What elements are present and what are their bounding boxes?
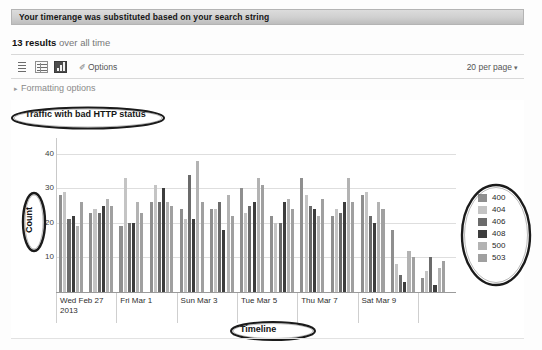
chart-bar[interactable] bbox=[248, 206, 251, 292]
chart-bar[interactable] bbox=[210, 209, 213, 292]
chart-bar[interactable] bbox=[291, 209, 294, 292]
chart-bar[interactable] bbox=[67, 219, 70, 292]
chart-bar[interactable] bbox=[227, 195, 230, 292]
chart-bar[interactable] bbox=[162, 188, 165, 292]
list-view-icon[interactable] bbox=[16, 61, 29, 73]
chart-bar[interactable] bbox=[403, 282, 406, 292]
chart-bar[interactable] bbox=[214, 209, 217, 292]
chart-bar[interactable] bbox=[93, 209, 96, 292]
chart-bar[interactable] bbox=[335, 209, 338, 292]
legend-item[interactable]: 400 bbox=[478, 192, 524, 204]
chart-bar[interactable] bbox=[110, 206, 113, 292]
chart-bar[interactable] bbox=[412, 257, 415, 292]
chart-bar[interactable] bbox=[98, 213, 101, 292]
chart-bar[interactable] bbox=[72, 216, 75, 292]
chart-bar[interactable] bbox=[257, 178, 260, 292]
chart-bar[interactable] bbox=[244, 213, 247, 292]
x-axis-tick-separator bbox=[116, 293, 117, 323]
chart-bar[interactable] bbox=[331, 216, 334, 292]
table-view-icon[interactable] bbox=[35, 61, 48, 73]
chart-bar[interactable] bbox=[347, 178, 350, 292]
chart-bar[interactable] bbox=[425, 271, 428, 292]
legend-label: 408 bbox=[492, 229, 505, 238]
chart-bar[interactable] bbox=[261, 185, 264, 292]
legend-item[interactable]: 500 bbox=[478, 240, 524, 252]
chart-bar[interactable] bbox=[76, 226, 79, 292]
chart-bar[interactable] bbox=[231, 216, 234, 292]
legend-item[interactable]: 503 bbox=[478, 252, 524, 264]
chart-bar[interactable] bbox=[170, 206, 173, 292]
chart-bar[interactable] bbox=[119, 226, 122, 292]
legend-swatch bbox=[478, 242, 487, 250]
chart-bar[interactable] bbox=[399, 275, 402, 292]
legend-item[interactable]: 408 bbox=[478, 228, 524, 240]
chart-bar[interactable] bbox=[321, 199, 324, 292]
divider-toolbar bbox=[11, 78, 524, 79]
chart-bar[interactable] bbox=[369, 216, 372, 292]
chart-bar[interactable] bbox=[253, 202, 256, 292]
chart-bar[interactable] bbox=[421, 278, 424, 292]
y-axis-tick-label: 40 bbox=[32, 149, 54, 158]
chart-bar[interactable] bbox=[305, 195, 308, 292]
chart-bar[interactable] bbox=[433, 285, 436, 292]
legend-label: 500 bbox=[492, 241, 505, 250]
chart-bar[interactable] bbox=[373, 223, 376, 292]
chart-bar[interactable] bbox=[381, 209, 384, 292]
chart-bar[interactable] bbox=[192, 219, 195, 292]
chart-bar[interactable] bbox=[279, 223, 282, 292]
chart-bar[interactable] bbox=[274, 223, 277, 292]
chart-bar[interactable] bbox=[136, 202, 139, 292]
chart-bar[interactable] bbox=[429, 257, 432, 292]
chart-bar[interactable] bbox=[407, 251, 410, 292]
chart-bar[interactable] bbox=[391, 230, 394, 292]
chart-bar[interactable] bbox=[317, 216, 320, 292]
chart-bar[interactable] bbox=[63, 192, 66, 292]
chart-bar[interactable] bbox=[124, 178, 127, 292]
chart-bar[interactable] bbox=[154, 185, 157, 292]
chart-bar[interactable] bbox=[184, 219, 187, 292]
chart-bar[interactable] bbox=[300, 178, 303, 292]
chart-bar[interactable] bbox=[365, 192, 368, 292]
chart-bar[interactable] bbox=[80, 202, 83, 292]
chart-bar[interactable] bbox=[361, 195, 364, 292]
chart-bar[interactable] bbox=[128, 223, 131, 292]
chart-bar[interactable] bbox=[240, 188, 243, 292]
chart-bar[interactable] bbox=[102, 206, 105, 292]
chart-bar[interactable] bbox=[201, 202, 204, 292]
formatting-options-toggle[interactable]: ▸Formatting options bbox=[14, 83, 96, 93]
x-axis-tick-label: Sat Mar 9 bbox=[362, 296, 397, 306]
chart-bar[interactable] bbox=[287, 199, 290, 292]
legend-item[interactable]: 406 bbox=[478, 216, 524, 228]
chart-bar[interactable] bbox=[150, 202, 153, 292]
chart-bar[interactable] bbox=[222, 230, 225, 292]
x-axis-title: Timeline bbox=[240, 324, 276, 334]
chart-bar[interactable] bbox=[343, 202, 346, 292]
options-button[interactable]: ✐Options bbox=[79, 62, 117, 72]
chart-bar[interactable] bbox=[140, 213, 143, 292]
timerange-banner: Your timerange was substituted based on … bbox=[11, 9, 524, 25]
chart-bar[interactable] bbox=[283, 202, 286, 292]
chart-bar[interactable] bbox=[313, 209, 316, 292]
chart-bar[interactable] bbox=[395, 264, 398, 292]
chart-bar[interactable] bbox=[218, 202, 221, 292]
chart-bar[interactable] bbox=[59, 195, 62, 292]
chart-bar[interactable] bbox=[377, 202, 380, 292]
chart-bar[interactable] bbox=[339, 213, 342, 292]
chart-bar[interactable] bbox=[309, 206, 312, 292]
chart-bar[interactable] bbox=[351, 202, 354, 292]
chart-bar[interactable] bbox=[188, 175, 191, 292]
per-page-selector[interactable]: 20 per page▾ bbox=[467, 62, 518, 72]
chart-bar[interactable] bbox=[166, 202, 169, 292]
chart-bar[interactable] bbox=[106, 199, 109, 292]
chart-bar[interactable] bbox=[158, 202, 161, 292]
chart-view-icon[interactable] bbox=[54, 61, 67, 73]
chart-bar[interactable] bbox=[438, 268, 441, 292]
chart-bar[interactable] bbox=[89, 213, 92, 292]
legend-swatch bbox=[478, 230, 487, 238]
chart-bar[interactable] bbox=[132, 223, 135, 292]
chart-bar[interactable] bbox=[180, 209, 183, 292]
chart-bar[interactable] bbox=[442, 261, 445, 292]
chart-bar[interactable] bbox=[270, 216, 273, 292]
legend-item[interactable]: 404 bbox=[478, 204, 524, 216]
chart-bar[interactable] bbox=[196, 161, 199, 292]
